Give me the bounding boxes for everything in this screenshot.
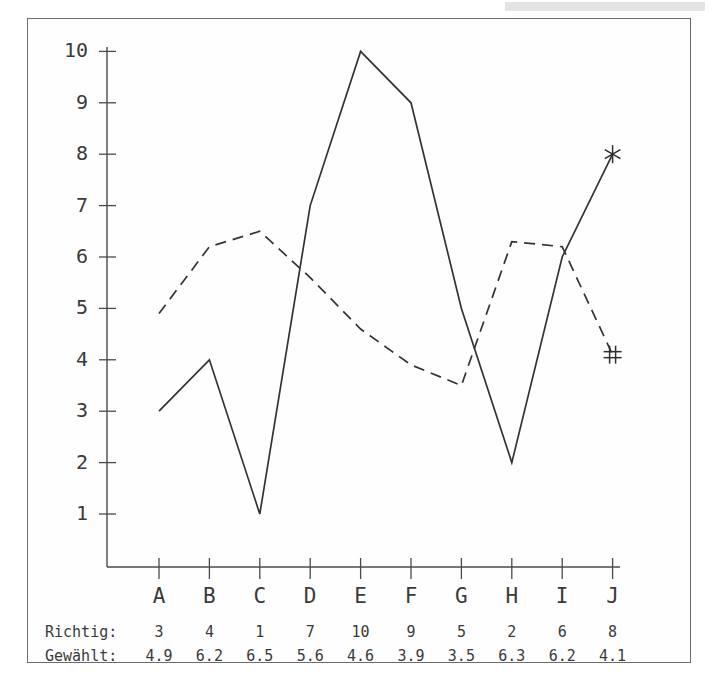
y-tick-label: 8 [48,141,88,165]
scan-artifact-band [505,2,705,11]
table-cell: 6.2 [539,647,585,665]
table-cell: 4.6 [338,647,384,665]
series-line-gewaehlt [159,231,613,385]
chart-page: 10987654321 ABCDEFGHIJ Richtig:Gewählt: … [0,0,712,682]
table-cell: 5.6 [287,647,333,665]
table-row-label: Richtig: [45,623,117,641]
x-category-label: E [341,584,381,608]
x-category-label: A [139,584,179,608]
y-tick-label: 6 [48,244,88,268]
table-cell: 6 [539,623,585,641]
table-cell: 4.9 [136,647,182,665]
table-cell: 8 [590,623,636,641]
asterisk-ray [613,150,621,155]
table-cell: 2 [489,623,535,641]
x-category-label: J [593,584,633,608]
asterisk-ray [605,150,613,155]
table-row-label: Gewählt: [45,647,117,665]
axes [107,47,620,567]
table-cell: 1 [237,623,283,641]
table-cell: 9 [388,623,434,641]
table-cell: 4.1 [590,647,636,665]
asterisk-ray [613,154,621,159]
table-cell: 6.5 [237,647,283,665]
table-cell: 6.2 [186,647,232,665]
y-tick-label: 10 [48,38,88,62]
series-line-richtig [159,51,613,514]
table-cell: 4 [186,623,232,641]
y-tick-label: 9 [48,90,88,114]
x-category-label: C [240,584,280,608]
x-category-label: D [290,584,330,608]
chart-frame: 10987654321 ABCDEFGHIJ Richtig:Gewählt: … [27,18,691,663]
table-cell: 5 [438,623,484,641]
table-cell: 3.9 [388,647,434,665]
x-category-label: I [542,584,582,608]
y-tick-label: 7 [48,193,88,217]
table-cell: 3.5 [438,647,484,665]
x-category-label: G [441,584,481,608]
hash-end-marker [604,346,622,364]
y-tick-label: 2 [48,450,88,474]
plot-area [28,19,690,662]
x-category-label: F [391,584,431,608]
y-tick-label: 4 [48,347,88,371]
table-cell: 10 [338,623,384,641]
table-cell: 7 [287,623,333,641]
table-cell: 6.3 [489,647,535,665]
table-cell: 3 [136,623,182,641]
y-tick-label: 3 [48,398,88,422]
x-axis-ticks [159,558,613,579]
asterisk-end-marker [605,145,621,163]
x-category-label: B [189,584,229,608]
x-category-label: H [492,584,532,608]
y-tick-label: 1 [48,501,88,525]
y-tick-label: 5 [48,295,88,319]
